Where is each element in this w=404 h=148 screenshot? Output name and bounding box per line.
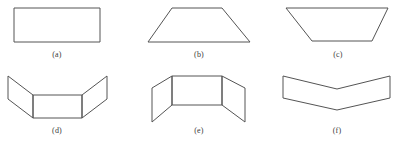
shape-d [8,76,107,118]
shape-f [283,76,390,110]
shape-e-face-3 [222,76,245,122]
shape-d-face-3 [82,76,107,118]
caption-d: (d) [52,126,62,135]
caption-b: (b) [194,50,204,59]
shape-f-face-1 [283,76,390,110]
shape-d-face-2 [8,76,33,118]
shape-b [148,8,250,42]
caption-c: (c) [333,50,342,59]
shape-c [286,8,388,41]
figure-container: (a)(b)(c)(d)(e)(f) [0,0,404,148]
shape-d-face-1 [33,95,82,118]
shape-b-face-1 [148,8,250,42]
caption-a: (a) [52,50,61,59]
caption-f: (f) [333,126,342,135]
shape-e [152,76,245,122]
shape-c-face-1 [286,8,388,41]
shape-e-face-1 [172,76,222,105]
shape-a [14,8,100,42]
shape-e-face-2 [152,76,172,122]
shape-a-face-1 [14,8,100,42]
caption-e: (e) [194,126,203,135]
